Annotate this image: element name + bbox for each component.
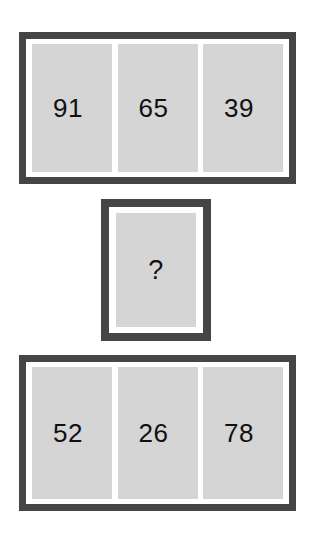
number-cell-value: 26 (139, 420, 169, 446)
number-cell-value: 39 (224, 95, 254, 121)
number-cell[interactable]: 65 (118, 44, 198, 172)
number-group-middle: ? (101, 199, 211, 341)
number-group-top: 91 65 39 (19, 32, 296, 184)
number-cell-value: 78 (224, 420, 254, 446)
number-cell[interactable]: 39 (203, 44, 283, 172)
number-cell-value: 52 (53, 420, 83, 446)
number-group-bottom: 52 26 78 (19, 355, 296, 511)
number-cell-value: 65 (139, 95, 169, 121)
number-cell[interactable]: 78 (203, 367, 283, 499)
number-cell-value: 91 (53, 95, 83, 121)
unknown-answer-cell[interactable]: ? (116, 213, 196, 327)
unknown-answer-value: ? (148, 257, 164, 284)
number-cell[interactable]: 26 (118, 367, 198, 499)
puzzle-stage: 91 65 39 ? 52 26 78 (0, 0, 316, 537)
number-cell[interactable]: 52 (32, 367, 112, 499)
number-cell[interactable]: 91 (32, 44, 112, 172)
